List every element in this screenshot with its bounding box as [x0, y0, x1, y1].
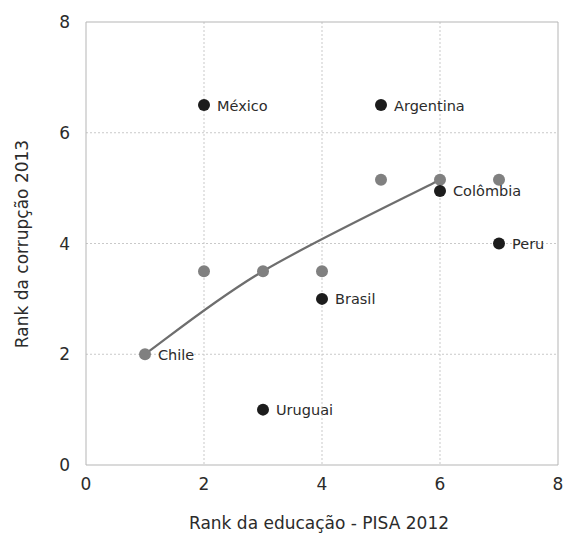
data-point-label: Argentina — [394, 98, 465, 114]
y-tick-label: 0 — [59, 455, 70, 475]
data-point-marker — [375, 99, 387, 111]
data-point-marker — [375, 174, 387, 186]
data-point-marker — [434, 174, 446, 186]
data-point-marker — [316, 293, 328, 305]
y-tick-label: 6 — [59, 123, 70, 143]
data-point-marker — [316, 265, 328, 277]
data-point-label: Peru — [512, 236, 544, 252]
data-point-label: Chile — [158, 347, 194, 363]
y-tick-label: 8 — [59, 12, 70, 32]
x-tick-label: 2 — [199, 474, 210, 494]
data-point-label: Uruguai — [276, 402, 333, 418]
x-axis-title: Rank da educação - PISA 2012 — [189, 513, 449, 533]
data-point-marker — [198, 265, 210, 277]
x-tick-label: 4 — [317, 474, 328, 494]
y-axis-title: Rank da corrupção 2013 — [12, 140, 32, 348]
data-point-marker — [257, 404, 269, 416]
chart-canvas: 02468 02468 Rank da educação - PISA 2012… — [0, 0, 583, 550]
scatter-chart: 02468 02468 Rank da educação - PISA 2012… — [0, 0, 583, 550]
data-point-marker — [493, 238, 505, 250]
y-tick-label: 2 — [59, 344, 70, 364]
data-point-label: México — [217, 98, 268, 114]
data-point-label: Brasil — [335, 291, 375, 307]
x-tick-label: 0 — [81, 474, 92, 494]
data-point-marker — [434, 185, 446, 197]
chart-background — [0, 0, 583, 550]
data-point-marker — [198, 99, 210, 111]
x-tick-label: 6 — [435, 474, 446, 494]
data-point-label: Colômbia — [453, 183, 521, 199]
data-point-marker — [257, 265, 269, 277]
x-tick-label: 8 — [553, 474, 564, 494]
data-point-marker — [139, 348, 151, 360]
y-tick-label: 4 — [59, 234, 70, 254]
